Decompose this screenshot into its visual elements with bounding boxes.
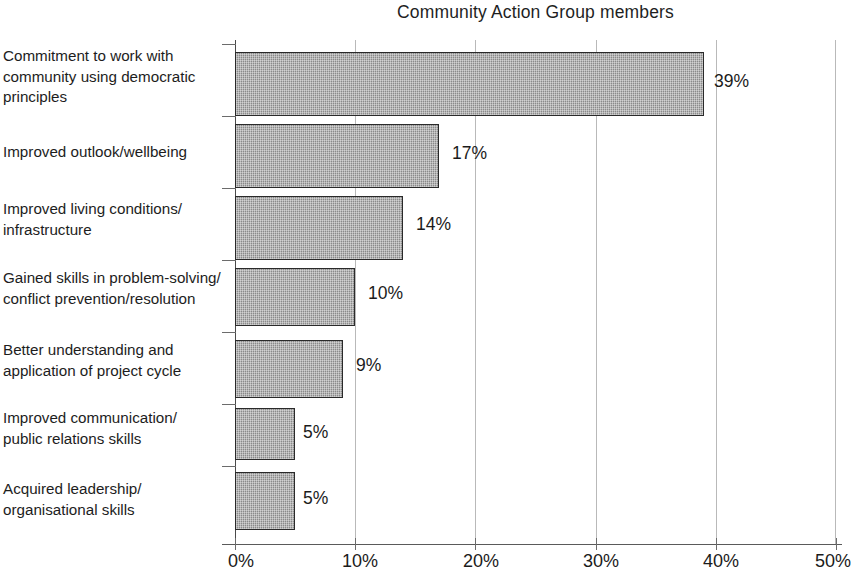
category-label-4: Better understanding and application of …	[3, 340, 229, 381]
category-label-line: infrastructure	[3, 220, 229, 241]
x-axis-tick	[716, 538, 717, 550]
category-label-line: Commitment to work with	[3, 46, 229, 67]
x-tick-label-50: 50%	[815, 551, 851, 572]
category-label-5: Improved communication/ public relations…	[3, 408, 229, 449]
y-axis-tick	[222, 116, 236, 117]
y-axis-tick	[222, 466, 236, 467]
bar-value-label-4: 9%	[356, 357, 381, 375]
x-tick-label-20: 20%	[463, 551, 499, 572]
category-label-line: organisational skills	[3, 500, 229, 521]
gridline-30	[596, 40, 597, 545]
category-label-line: Gained skills in problem-solving/	[3, 268, 229, 289]
category-label-line: Improved living conditions/	[3, 199, 229, 220]
x-tick-label-30: 30%	[583, 551, 619, 572]
bar-value-label-0: 39%	[714, 73, 749, 91]
bar-value-label-6: 5%	[303, 490, 328, 508]
y-axis-tick	[222, 188, 236, 189]
bar-value-label-2: 14%	[416, 216, 451, 234]
x-axis-line	[222, 544, 842, 545]
plot-area	[235, 40, 836, 545]
y-axis-tick	[222, 44, 236, 45]
x-axis-tick	[475, 538, 476, 550]
y-axis-tick	[222, 404, 236, 405]
category-label-3: Gained skills in problem-solving/ confli…	[3, 268, 229, 309]
y-axis-tick	[222, 260, 236, 261]
x-axis-tick	[355, 538, 356, 550]
bar-value-label-5: 5%	[303, 424, 328, 442]
category-label-1: Improved outlook/wellbeing	[3, 142, 229, 163]
category-label-line: Improved communication/	[3, 408, 229, 429]
bar-value-label-3: 10%	[368, 285, 403, 303]
gridline-10	[355, 40, 356, 545]
category-label-2: Improved living conditions/ infrastructu…	[3, 199, 229, 240]
category-label-6: Acquired leadership/ organisational skil…	[3, 479, 229, 520]
bar-chart: Community Action Group members 39% 17% 1…	[0, 0, 860, 579]
category-label-line: Better understanding and	[3, 340, 229, 361]
category-label-line: public relations skills	[3, 429, 229, 450]
x-tick-label-10: 10%	[342, 551, 378, 572]
chart-title: Community Action Group members	[235, 2, 836, 23]
category-label-line: principles	[3, 87, 229, 108]
category-label-line: application of project cycle	[3, 361, 229, 382]
x-tick-label-40: 40%	[703, 551, 739, 572]
x-tick-label-0: 0%	[228, 551, 254, 572]
x-axis-tick	[235, 538, 236, 550]
category-label-line: Acquired leadership/	[3, 479, 229, 500]
gridline-40	[716, 40, 717, 545]
y-axis-tick	[222, 332, 236, 333]
gridline-20	[475, 40, 476, 545]
category-label-line: Improved outlook/wellbeing	[3, 142, 229, 163]
category-label-line: conflict prevention/resolution	[3, 289, 229, 310]
category-label-0: Commitment to work with community using …	[3, 46, 229, 108]
x-axis-tick	[836, 538, 837, 550]
gridline-50	[835, 40, 836, 545]
bar-value-label-1: 17%	[452, 145, 487, 163]
x-axis-tick	[596, 538, 597, 550]
category-label-line: community using democratic	[3, 67, 229, 88]
